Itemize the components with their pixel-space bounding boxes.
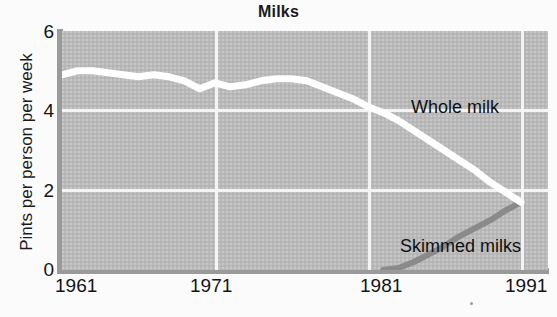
- y-tick-6: 6: [14, 22, 54, 41]
- series-label-skimmed-milks: Skimmed milks: [400, 236, 521, 256]
- x-tick-1981: 1981: [360, 276, 402, 296]
- y-tick-0: 0: [14, 260, 54, 279]
- x-tick-1991: 1991: [505, 276, 547, 296]
- chart-figure: Milks Pints per person per week 6 4 2 0 …: [0, 0, 557, 317]
- scan-artifact-speck: [470, 302, 473, 305]
- series-lines: [62, 31, 548, 270]
- series-label-whole-milk: Whole milk: [411, 97, 499, 117]
- y-tick-2: 2: [14, 181, 54, 200]
- x-tick-1961: 1961: [55, 276, 97, 296]
- plot-area: Whole milk Skimmed milks: [62, 31, 548, 270]
- line-whole-milk: [62, 71, 521, 203]
- x-tick-1971: 1971: [190, 276, 232, 296]
- y-axis-tick-labels: 6 4 2 0: [6, 0, 54, 317]
- y-tick-4: 4: [14, 101, 54, 120]
- chart-title: Milks: [0, 2, 557, 22]
